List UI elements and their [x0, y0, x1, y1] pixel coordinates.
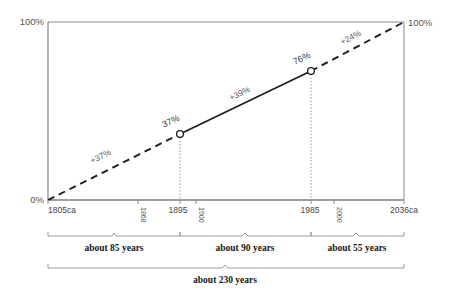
span-bracket-label-1: about 85 years	[84, 243, 143, 253]
span-brackets	[48, 232, 404, 236]
segment-label-2: +39%	[228, 84, 253, 103]
point-label-1895: 37%	[160, 113, 181, 130]
series-line	[48, 22, 404, 200]
x-tick-label-2000: 2000	[336, 207, 343, 223]
total-bracket	[48, 264, 404, 268]
data-point-marker	[177, 131, 184, 138]
x-tick-label-2036ca: 2036ca	[390, 205, 418, 215]
x-tick-label-1868: 1868	[140, 207, 147, 223]
x-tick-label-1900: 1900	[198, 207, 205, 223]
total-bracket-label: about 230 years	[193, 275, 257, 285]
growth-timeline-chart: 100% 0% 100% 37% 76% +37% +39% +24%	[0, 0, 449, 292]
right-end-label: 100%	[408, 17, 433, 28]
segment-label-1: +37%	[89, 147, 114, 166]
point-label-1985: 76%	[291, 50, 312, 67]
x-tick-label-1895: 1895	[169, 205, 188, 215]
x-tick-label-1805ca: 1805ca	[48, 205, 76, 215]
y-axis-top-label: 100%	[20, 16, 45, 27]
x-axis-ticks	[48, 200, 404, 204]
x-tick-label-1985: 1985	[301, 205, 320, 215]
span-bracket-label-2: about 90 years	[215, 243, 274, 253]
data-point-marker	[308, 68, 315, 75]
y-axis-bottom-label: 0%	[30, 194, 44, 205]
span-bracket-label-3: about 55 years	[327, 243, 386, 253]
segment-label-3: +24%	[339, 28, 364, 47]
